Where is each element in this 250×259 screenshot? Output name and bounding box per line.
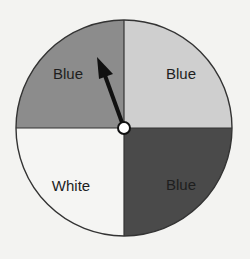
section-label-top-right: Blue	[166, 65, 196, 82]
pivot-icon	[118, 122, 130, 134]
spinner-graphic	[0, 0, 250, 259]
spinner-diagram: Blue Blue White Blue	[0, 0, 250, 259]
section-label-bottom-right: Blue	[166, 176, 196, 193]
section-label-top-left: Blue	[53, 65, 83, 82]
section-label-bottom-left: White	[52, 177, 90, 194]
